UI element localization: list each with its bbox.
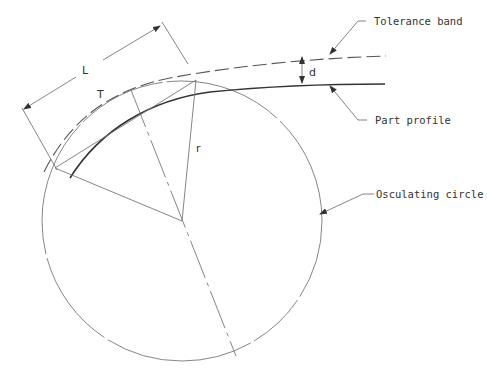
osculating-circle-label: Osculating circle [376, 188, 483, 200]
radius-label: r [196, 142, 201, 155]
extension-line-left [22, 108, 57, 170]
diagram-canvas: L T r d Tolerance band Part profile Oscu… [0, 0, 487, 379]
extension-line-right [162, 22, 188, 64]
leader-part-profile [330, 86, 367, 120]
tangent-label: T [96, 88, 104, 101]
leader-tolerance-band [330, 21, 366, 54]
dimension-line-l-left [24, 77, 76, 109]
chord-line [55, 80, 196, 168]
radius-line-left [55, 168, 182, 221]
tolerance-band-curve [44, 56, 386, 172]
deviation-label: d [309, 66, 316, 79]
dimension-line-l-right [103, 26, 160, 60]
radius-line-r [182, 80, 196, 221]
tolerance-band-label: Tolerance band [374, 15, 463, 27]
part-profile-label: Part profile [375, 114, 451, 126]
length-label: L [82, 64, 89, 77]
leader-osculating-circle [320, 194, 374, 214]
center-line [131, 90, 236, 356]
part-profile-curve [70, 84, 385, 178]
